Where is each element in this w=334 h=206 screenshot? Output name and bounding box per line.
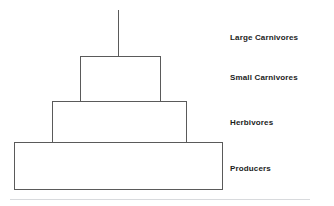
footer-divider (10, 199, 310, 200)
pyramid-label-producers: Producers (230, 164, 271, 174)
pyramid-label-small-carnivores: Small Carnivores (230, 73, 298, 83)
pyramid-tier-large-carnivores (118, 10, 119, 57)
pyramid-label-large-carnivores: Large Carnivores (230, 33, 298, 43)
pyramid-label-herbivores: Herbivores (230, 118, 273, 128)
pyramid-tier-herbivores (52, 101, 187, 143)
pyramid-tier-producers (14, 142, 223, 190)
ecological-pyramid-diagram: Large Carnivores Small Carnivores Herbiv… (0, 0, 334, 206)
pyramid-tier-small-carnivores (80, 56, 161, 102)
